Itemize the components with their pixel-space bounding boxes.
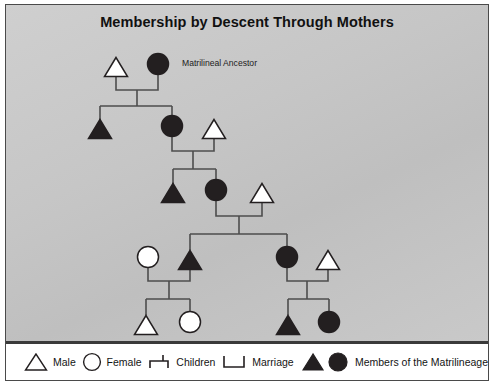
legend-item-label: Members of the Matrilineage [355,356,488,368]
lineage-male-symbol[interactable] [179,251,202,270]
generation-g1 [105,54,169,77]
figure-card: Membership by Descent Through Mothers Ma… [5,4,489,381]
male-symbol[interactable] [251,184,274,203]
marriage-link-icon [221,355,247,369]
male-symbol[interactable] [135,316,158,335]
descent-link [190,216,287,250]
legend-item: Male [24,353,76,371]
legend-item: Members of the Matrilineage [302,352,488,372]
lineage-male-symbol[interactable] [277,316,300,335]
lineage-female-symbol[interactable] [277,247,298,268]
kinship-diagram-area: Membership by Descent Through Mothers Ma… [6,5,488,344]
legend: MaleFemaleChildrenMarriageMembers of the… [6,344,488,379]
lineage-female-symbol[interactable] [319,312,340,333]
male-symbol[interactable] [317,251,340,270]
children-link-icon [147,354,171,370]
legend-item: Marriage [221,355,293,369]
lineage-male-symbol[interactable] [162,184,185,203]
male-symbol[interactable] [203,120,226,139]
descent-link [173,151,216,185]
legend-item-label: Marriage [252,356,293,368]
legend-item: Children [147,354,215,370]
legend-item: Female [82,352,142,372]
generation-g4 [138,247,340,270]
descent-link [146,281,190,315]
kinship-tree-svg: Matrilineal Ancestor [6,5,488,344]
generation-g5 [135,312,340,335]
generation-g3 [162,180,274,203]
female-symbol[interactable] [138,247,159,268]
lineage-male-symbol[interactable] [89,120,112,139]
descent-link [288,281,329,315]
annotation-label: Matrilineal Ancestor [182,58,257,68]
descent-link [100,90,172,122]
female-symbol[interactable] [180,312,201,333]
lineage-female-symbol[interactable] [162,116,183,137]
lineage-female-symbol[interactable] [206,180,227,201]
legend-item-label: Children [176,356,215,368]
filled-triangle-and-circle-icon [302,352,350,372]
generation-g2 [89,116,226,139]
legend-item-label: Female [107,356,142,368]
circle-outline-icon [82,352,102,372]
lineage-female-symbol[interactable] [148,54,169,75]
triangle-outline-icon [24,353,48,371]
legend-item-label: Male [53,356,76,368]
screenshot-frame: Membership by Descent Through Mothers Ma… [0,0,494,385]
male-symbol[interactable] [105,58,128,77]
